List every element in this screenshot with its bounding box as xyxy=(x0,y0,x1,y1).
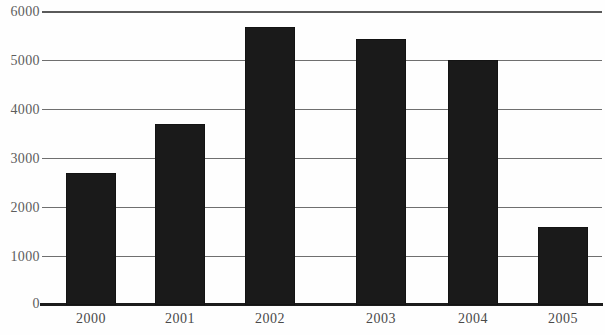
ytick-label: 4000 xyxy=(6,103,40,117)
bar-2003 xyxy=(356,39,406,305)
ytick-5000: 5000 xyxy=(0,54,40,68)
bar-2004 xyxy=(448,60,498,305)
xtick-label-2002: 2002 xyxy=(235,312,305,326)
xtick-label-2001: 2001 xyxy=(145,312,215,326)
ytick-label: 3000 xyxy=(6,152,40,166)
bar-2005 xyxy=(538,227,588,305)
bar-chart: 6000 5000 4000 3000 2000 1000 0 2000 200… xyxy=(0,0,605,335)
bar-2001 xyxy=(155,124,205,305)
ytick-label: 2000 xyxy=(6,201,40,215)
gridline-5000 xyxy=(42,60,602,61)
ytick-1000: 1000 xyxy=(0,250,40,264)
gridline-1000 xyxy=(42,256,602,257)
ytick-4000: 4000 xyxy=(0,103,40,117)
ytick-label: 0 xyxy=(6,297,40,311)
gridline-3000 xyxy=(42,158,602,159)
ytick-0: 0 xyxy=(0,297,40,311)
axis-baseline xyxy=(40,303,603,306)
bar-2002 xyxy=(245,27,295,305)
xtick-label-2003: 2003 xyxy=(346,312,416,326)
xtick-label-2000: 2000 xyxy=(56,312,126,326)
ytick-label: 1000 xyxy=(6,250,40,264)
ytick-label: 5000 xyxy=(6,54,40,68)
gridline-6000 xyxy=(42,11,602,13)
xtick-label-2004: 2004 xyxy=(438,312,508,326)
bar-2000 xyxy=(66,173,116,305)
ytick-2000: 2000 xyxy=(0,201,40,215)
ytick-6000: 6000 xyxy=(0,5,40,19)
xtick-label-2005: 2005 xyxy=(528,312,598,326)
gridline-2000 xyxy=(42,207,602,208)
ytick-label: 6000 xyxy=(6,5,40,19)
plot-area: 6000 5000 4000 3000 2000 1000 0 2000 200… xyxy=(0,0,605,335)
gridline-4000 xyxy=(42,109,602,110)
ytick-3000: 3000 xyxy=(0,152,40,166)
